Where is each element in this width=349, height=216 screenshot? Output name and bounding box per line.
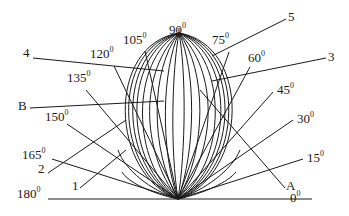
angle-label-165: 1650 xyxy=(22,147,46,161)
callout-label-B: B xyxy=(18,99,27,112)
angle-label-180: 1800 xyxy=(17,186,41,200)
dome-curves xyxy=(118,33,240,199)
angle-label-135: 1350 xyxy=(67,70,91,84)
leader-1 xyxy=(80,150,126,188)
angle-label-150: 1500 xyxy=(45,109,69,123)
leader-2 xyxy=(48,120,126,173)
callout-label-2: 2 xyxy=(38,162,45,175)
angle-label-75: 750 xyxy=(212,32,229,46)
leader-B xyxy=(30,101,164,108)
angle-label-30: 300 xyxy=(297,111,314,125)
callout-label-5: 5 xyxy=(288,10,295,23)
callout-label-4: 4 xyxy=(23,46,30,59)
angle-label-105: 1050 xyxy=(123,32,147,46)
callout-leaders xyxy=(30,19,326,188)
angle-label-90: 900 xyxy=(169,22,186,36)
angle-label-60: 600 xyxy=(248,50,265,64)
callout-label-3: 3 xyxy=(328,50,335,63)
diagram-canvas: 00 150 300 450 600 750 900 1050 1200 135… xyxy=(0,0,349,216)
callout-label-A: A xyxy=(286,179,295,192)
angle-label-15: 150 xyxy=(307,150,324,164)
leader-3 xyxy=(212,58,326,81)
angle-label-120: 1200 xyxy=(90,46,114,60)
callout-label-1: 1 xyxy=(72,179,79,192)
angle-label-45: 450 xyxy=(277,82,294,96)
